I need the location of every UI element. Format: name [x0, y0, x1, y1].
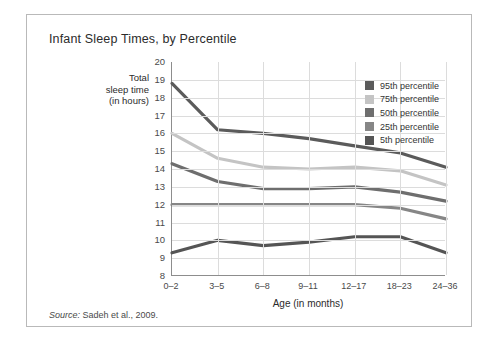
y-axis-tick-label: 17	[131, 111, 165, 121]
legend-swatch-icon	[365, 122, 374, 131]
x-axis-tick-label: 6–8	[255, 281, 270, 291]
legend-item[interactable]: 50th percentile	[365, 106, 439, 120]
gridline-horizontal	[172, 169, 445, 170]
chart-figure: Infant Sleep Times, by Percentile Total …	[26, 14, 472, 327]
gridline-horizontal	[172, 258, 445, 259]
x-axis-tick-label: 18–23	[387, 281, 412, 291]
legend-swatch-icon	[365, 108, 374, 117]
legend-swatch-icon	[365, 136, 374, 145]
legend-item-label: 25th percentile	[380, 122, 439, 132]
legend-item[interactable]: 95th percentile	[365, 79, 439, 93]
x-axis-tick-labels: 0–23–56–89–1112–1718–2324–36	[171, 281, 445, 295]
y-axis-tick-label: 19	[131, 75, 165, 85]
x-axis-tick-label: 0–2	[163, 281, 178, 291]
gridline-horizontal	[172, 223, 445, 224]
y-axis-tick-labels: 201918171615141312111098	[131, 55, 165, 283]
x-axis-tick-label: 9–11	[298, 281, 317, 291]
legend-item[interactable]: 25th percentile	[365, 120, 439, 134]
y-axis-tick-label: 13	[131, 182, 165, 192]
legend-item[interactable]: 75th percentile	[365, 93, 439, 107]
source-label: Source:	[49, 310, 80, 320]
y-axis-tick-label: 9	[131, 253, 165, 263]
x-axis-tick-label: 3–5	[209, 281, 224, 291]
legend-swatch-icon	[365, 81, 374, 90]
legend-item-label: 5th percentile	[380, 135, 434, 145]
y-axis-tick-label: 20	[131, 57, 165, 67]
legend-item-label: 95th percentile	[380, 81, 439, 91]
y-axis-tick-label: 8	[131, 271, 165, 281]
y-axis-tick-label: 16	[131, 128, 165, 138]
x-axis-tick-label: 12–17	[341, 281, 366, 291]
y-axis-tick-label: 15	[131, 146, 165, 156]
y-axis-tick-label: 11	[131, 218, 165, 228]
plot-area-wrapper: Total sleep time (in hours) 201918171615…	[27, 15, 473, 328]
gridline-horizontal	[172, 151, 445, 152]
gridline-horizontal	[172, 187, 445, 188]
x-axis-tick-label: 24–36	[432, 281, 457, 291]
y-axis-tick-label: 18	[131, 93, 165, 103]
legend-item-label: 75th percentile	[380, 94, 439, 104]
x-axis-title: Age (in months)	[171, 298, 445, 309]
gridline-horizontal	[172, 205, 445, 206]
legend-swatch-icon	[365, 95, 374, 104]
chart-legend: 95th percentile75th percentile50th perce…	[365, 79, 439, 147]
source-note: Source: Sadeh et al., 2009.	[49, 310, 158, 320]
y-axis-tick-label: 14	[131, 164, 165, 174]
legend-item-label: 50th percentile	[380, 108, 439, 118]
y-axis-tick-label: 10	[131, 235, 165, 245]
legend-item[interactable]: 5th percentile	[365, 133, 439, 147]
gridline-vertical	[446, 62, 447, 275]
gridline-horizontal	[172, 240, 445, 241]
y-axis-tick-label: 12	[131, 200, 165, 210]
source-citation: Sadeh et al., 2009.	[80, 310, 158, 320]
